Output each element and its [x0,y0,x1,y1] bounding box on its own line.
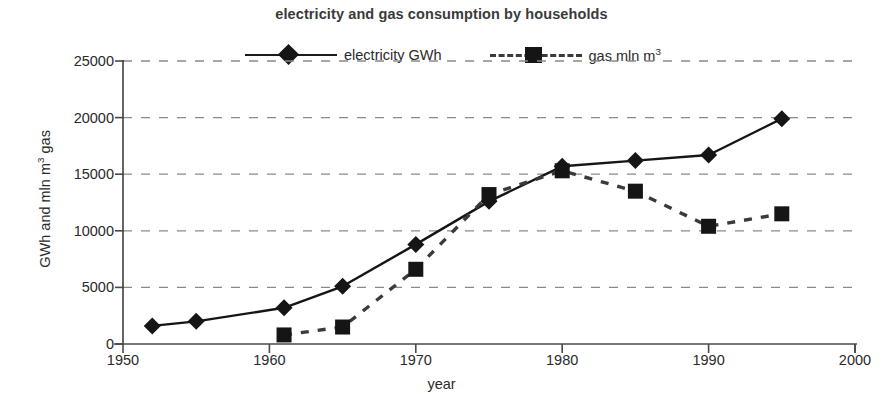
series-line-1 [152,119,782,326]
data-point-marker-square [482,187,497,202]
plot-area [0,0,883,406]
data-point-marker-diamond [627,152,644,169]
data-point-marker-diamond [276,299,293,316]
data-point-marker-square [628,184,643,199]
data-point-marker-diamond [188,313,205,330]
series-line-2 [284,171,782,335]
data-point-marker-diamond [773,110,790,127]
data-point-marker-square [555,163,570,178]
data-point-marker-square [277,327,292,342]
data-point-marker-diamond [407,236,424,253]
data-point-marker-square [701,219,716,234]
data-point-marker-diamond [334,278,351,295]
data-point-marker-square [408,262,423,277]
data-point-marker-square [335,320,350,335]
data-point-marker-diamond [144,317,161,334]
chart-container: electricity and gas consumption by house… [0,0,883,406]
data-point-marker-square [774,206,789,221]
data-point-marker-diamond [700,146,717,163]
